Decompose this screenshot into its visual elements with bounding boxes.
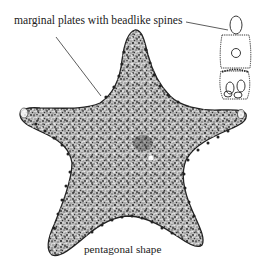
madreporite (148, 155, 153, 160)
bead-spine (230, 16, 242, 34)
starfish-body (20, 30, 246, 256)
starfish-illustration (0, 0, 261, 263)
upper-plate (220, 35, 251, 68)
marginal-plate-detail (220, 16, 251, 99)
leader-line-to-detail (186, 22, 228, 30)
leader-line-to-star (56, 37, 101, 96)
pentagonal-shape-label: pentagonal shape (84, 244, 161, 255)
marginal-plates-label: marginal plates with beadlike spines (14, 15, 183, 27)
